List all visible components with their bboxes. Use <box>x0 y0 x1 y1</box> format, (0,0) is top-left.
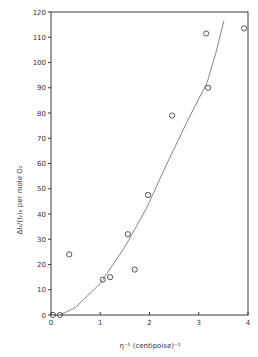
data-point-open-circle <box>125 232 130 237</box>
y-tick-label: 110 <box>33 34 46 42</box>
plot-axes <box>51 12 248 315</box>
y-tick-label: 20 <box>37 261 46 269</box>
data-point-open-circle <box>145 192 150 197</box>
y-tick-label: 80 <box>37 110 46 118</box>
fitted-curve <box>60 21 224 315</box>
data-point-open-circle <box>204 31 209 36</box>
plot-frame <box>51 12 248 315</box>
data-point-open-circle <box>67 252 72 257</box>
x-tick-label: 2 <box>147 319 151 327</box>
x-tick-label: 3 <box>197 319 201 327</box>
data-points <box>50 26 246 318</box>
data-point-open-circle <box>206 85 211 90</box>
chart-canvas: 012340102030405060708090100110120 η⁻¹ (c… <box>0 0 258 357</box>
x-tick-label: 0 <box>49 319 53 327</box>
y-tick-label: 0 <box>42 312 46 320</box>
x-axis-label: η⁻¹ (centipoise)⁻¹ <box>119 342 180 350</box>
axis-ticks: 012340102030405060708090100110120 <box>33 9 251 328</box>
fit-line <box>60 21 224 315</box>
x-tick-label: 4 <box>246 319 251 327</box>
y-tick-label: 100 <box>33 59 46 67</box>
y-tick-label: 70 <box>37 135 46 143</box>
y-tick-label: 10 <box>37 286 46 294</box>
y-tick-label: 60 <box>37 160 46 168</box>
y-axis-label: ΔI₂/(I₂)₀ per mole O₂ <box>16 165 24 234</box>
data-point-open-circle <box>170 113 175 118</box>
y-tick-label: 40 <box>37 211 46 219</box>
y-tick-label: 120 <box>33 9 46 17</box>
y-tick-label: 90 <box>37 84 46 92</box>
x-tick-label: 1 <box>98 319 102 327</box>
data-point-open-circle <box>132 267 137 272</box>
data-point-open-circle <box>108 275 113 280</box>
y-tick-label: 30 <box>37 236 46 244</box>
data-point-open-circle <box>241 26 246 31</box>
y-tick-label: 50 <box>37 185 46 193</box>
